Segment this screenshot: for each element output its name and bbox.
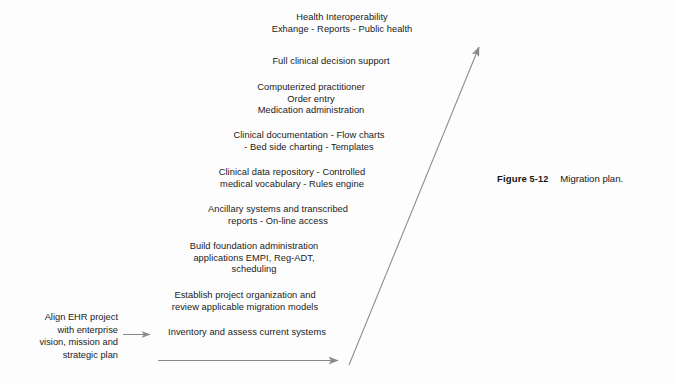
step-health-interoperability: Health Interoperability Exhange - Report… [238, 12, 446, 35]
step-establish-project-organization: Establish project organization and revie… [136, 290, 354, 313]
origin-text-block: Align EHR project with enterprise vision… [6, 311, 118, 361]
step-clinical-data-repository: Clinical data repository - Controlled me… [184, 167, 400, 190]
step-clinical-documentation: Clinical documentation - Flow charts - B… [200, 130, 418, 153]
step-inventory-and-assess: Inventory and assess current systems [140, 327, 354, 339]
caption-number: 5-12 [530, 174, 549, 184]
step-build-foundation-administration: Build foundation administration applicat… [148, 241, 360, 276]
figure-caption: Figure 5-12 Migration plan. [497, 173, 623, 184]
step-computerized-practitioner-order-entry: Computerized practitioner Order entry Me… [216, 82, 406, 117]
migration-plan-figure: Align EHR project with enterprise vision… [0, 0, 675, 384]
caption-label: Figure [497, 173, 527, 184]
caption-text: Migration plan. [560, 173, 623, 184]
step-ancillary-systems: Ancillary systems and transcribed report… [172, 204, 384, 227]
step-full-clinical-decision-support: Full clinical decision support [238, 56, 424, 68]
